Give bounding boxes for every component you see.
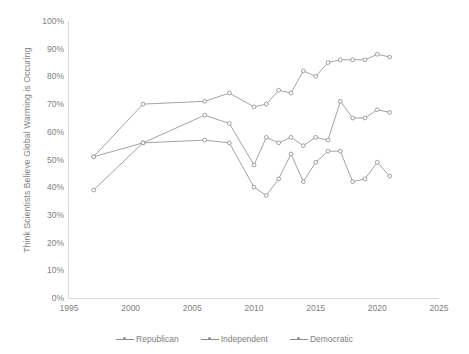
x-axis-tick-label: 2010 [234,302,274,314]
data-point [203,99,207,103]
legend-item-independent[interactable]: Independent [201,334,268,344]
data-point [314,135,318,139]
series-independent [92,99,392,167]
y-axis-tick-label: 80% [4,71,64,81]
data-point [363,177,367,181]
data-point [141,141,145,145]
data-point [388,55,392,59]
data-point [375,160,379,164]
series-line [94,101,390,165]
y-axis-tick-label: 10% [4,265,64,275]
line-chart: Think Scientists Believe Global Warming … [0,0,469,354]
data-point [363,58,367,62]
data-point [326,149,330,153]
data-point [227,141,231,145]
y-axis-tick-label: 70% [4,99,64,109]
data-point [277,177,281,181]
data-point [264,102,268,106]
x-axis-line [68,298,439,299]
data-point [289,91,293,95]
chart-legend: RepublicanIndependentDemocratic [0,330,469,348]
series-svg [69,21,439,298]
data-point [203,113,207,117]
legend-marker-icon [290,335,308,343]
x-axis-tick-label: 2025 [419,302,459,314]
plot-area [69,21,439,298]
data-point [277,141,281,145]
data-point [388,174,392,178]
x-axis-tick-labels: 1995200020052010201520202025 [0,302,469,316]
data-point [301,180,305,184]
legend-label: Republican [136,334,179,344]
x-axis-tick-label: 1995 [49,302,89,314]
data-point [141,102,145,106]
data-point [338,99,342,103]
data-point [314,75,318,79]
data-point [252,185,256,189]
y-axis-tick-label: 30% [4,210,64,220]
data-point [363,116,367,120]
y-axis-tick-label: 50% [4,155,64,165]
data-point [264,194,268,198]
data-point [277,88,281,92]
y-axis-tick-labels: 0%10%20%30%40%50%60%70%80%90%100% [0,0,64,354]
x-axis-tick-label: 2000 [111,302,151,314]
y-axis-tick-label: 20% [4,238,64,248]
y-axis-tick-label: 100% [4,16,64,26]
data-point [252,105,256,109]
data-point [301,69,305,73]
data-point [227,122,231,126]
x-axis-tick-label: 2015 [296,302,336,314]
x-axis-tick-label: 2005 [172,302,212,314]
data-point [338,58,342,62]
series-line [94,54,390,156]
data-point [264,135,268,139]
series-republican [92,138,392,197]
data-point [375,108,379,112]
series-democratic [92,52,392,158]
data-point [92,155,96,159]
data-point [203,138,207,142]
data-point [289,135,293,139]
legend-item-democratic[interactable]: Democratic [290,334,353,344]
legend-item-republican[interactable]: Republican [116,334,179,344]
data-point [227,91,231,95]
data-point [289,152,293,156]
legend-label: Independent [221,334,268,344]
legend-label: Democratic [310,334,353,344]
data-point [375,52,379,56]
data-point [252,163,256,167]
legend-marker-icon [201,335,219,343]
data-point [351,116,355,120]
y-axis-tick-label: 90% [4,44,64,54]
y-axis-tick-label: 60% [4,127,64,137]
data-point [92,188,96,192]
series-line [94,140,390,195]
data-point [351,180,355,184]
data-point [301,144,305,148]
data-point [326,61,330,65]
data-point [314,160,318,164]
legend-marker-icon [116,335,134,343]
y-axis-tick-label: 40% [4,182,64,192]
data-point [351,58,355,62]
data-point [326,138,330,142]
data-point [388,111,392,115]
data-point [338,149,342,153]
x-axis-tick-label: 2020 [357,302,397,314]
